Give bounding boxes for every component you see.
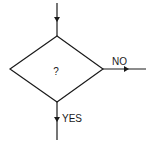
decision-label: ? (53, 66, 59, 77)
decision-diagram: ? NO YES (0, 0, 163, 148)
incoming-arrow-icon (54, 17, 60, 22)
yes-label: YES (62, 113, 82, 124)
yes-arrow-icon (54, 117, 60, 122)
no-label: NO (112, 56, 127, 67)
